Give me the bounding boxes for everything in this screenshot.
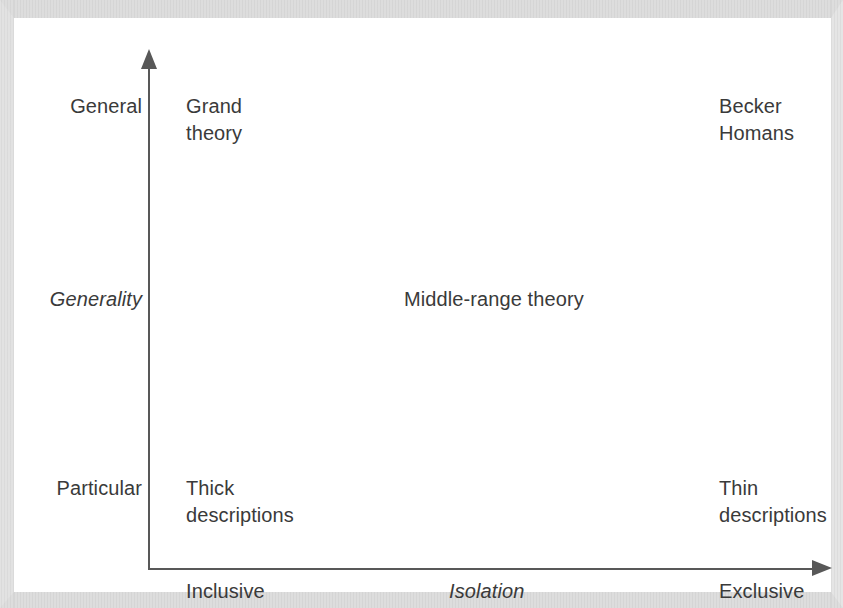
quadrant-label-grand-theory: Grand theory bbox=[186, 93, 242, 147]
x-axis-left-label: Inclusive bbox=[186, 578, 265, 605]
quadrant-label-middle-range-theory: Middle-range theory bbox=[404, 286, 584, 313]
quadrant-label-becker-homans: Becker Homans bbox=[719, 93, 794, 147]
y-axis-bottom-label: Particular bbox=[45, 475, 142, 502]
x-axis-line bbox=[149, 568, 814, 570]
quadrant-label-thin-descriptions: Thin descriptions bbox=[719, 475, 827, 529]
y-axis-title: Generality bbox=[42, 286, 142, 313]
quadrant-label-thick-descriptions: Thick descriptions bbox=[186, 475, 294, 529]
y-axis-top-label: General bbox=[51, 93, 142, 120]
figure-plate: General Generality Particular Inclusive … bbox=[14, 18, 831, 592]
x-axis-right-label: Exclusive bbox=[719, 578, 804, 605]
x-axis-arrowhead-icon bbox=[812, 560, 832, 576]
y-axis-line bbox=[148, 66, 150, 570]
y-axis-arrowhead-icon bbox=[141, 49, 157, 69]
figure-canvas: General Generality Particular Inclusive … bbox=[0, 0, 843, 608]
x-axis-title: Isolation bbox=[449, 578, 524, 605]
